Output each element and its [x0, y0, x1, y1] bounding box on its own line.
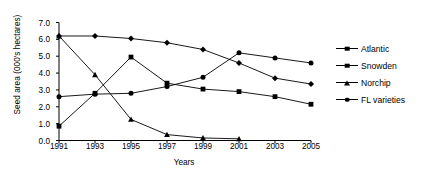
- series-line: [59, 36, 239, 139]
- data-point: [93, 92, 98, 97]
- legend-symbol: [344, 80, 350, 85]
- legend-symbol: [345, 46, 350, 51]
- chart-legend: AtlanticSnowdenNorchipFL varieties: [336, 40, 427, 108]
- legend-marker-square-icon: [336, 60, 358, 72]
- data-point: [165, 84, 170, 89]
- legend-item-fl-varieties[interactable]: FL varieties: [336, 91, 427, 108]
- series-snowden: [57, 55, 314, 129]
- legend-label: Snowden: [358, 61, 397, 71]
- data-point: [200, 46, 206, 52]
- legend-symbol: [345, 97, 350, 102]
- legend-marker-diamond-icon: [336, 43, 358, 55]
- series-norchip: [56, 33, 242, 141]
- legend-item-atlantic[interactable]: Atlantic: [336, 40, 427, 57]
- data-point: [237, 89, 242, 94]
- data-point: [309, 102, 314, 107]
- legend-label: Atlantic: [358, 44, 389, 54]
- data-point: [129, 55, 134, 60]
- data-point: [92, 33, 98, 39]
- chart-figure: Seed area (000's hectares) 0.01.02.03.04…: [0, 0, 427, 177]
- data-point: [201, 87, 206, 92]
- legend-item-snowden[interactable]: Snowden: [336, 57, 427, 74]
- data-point: [237, 50, 242, 55]
- legend-marker-triangle-icon: [336, 77, 358, 89]
- data-point: [309, 60, 314, 65]
- data-point: [57, 124, 62, 129]
- legend-item-norchip[interactable]: Norchip: [336, 74, 427, 91]
- data-point: [273, 94, 278, 99]
- legend-marker-circle-icon: [336, 94, 358, 106]
- data-point: [308, 81, 314, 87]
- data-point: [128, 36, 134, 42]
- legend-label: FL varieties: [358, 95, 405, 105]
- data-point: [273, 55, 278, 60]
- data-point: [236, 60, 242, 66]
- data-point: [129, 91, 134, 96]
- data-point: [272, 75, 278, 81]
- legend-label: Norchip: [358, 78, 391, 88]
- data-point: [164, 40, 170, 46]
- data-point: [57, 94, 62, 99]
- data-point: [201, 75, 206, 80]
- legend-symbol: [345, 63, 350, 68]
